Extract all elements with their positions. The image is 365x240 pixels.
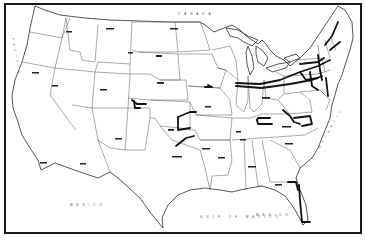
label-pacific: PACIFIC — [11, 37, 22, 77]
great-lakes — [226, 28, 300, 75]
state-borders — [22, 18, 336, 190]
map-labels — [32, 28, 293, 186]
label-mexico: MEXICO — [70, 203, 106, 207]
map-frame — [5, 4, 361, 233]
label-mexico-southeast: MEXICO — [256, 213, 292, 217]
label-canada: CANADA — [178, 12, 215, 16]
us-map: CANADA MEXICO PACIFIC ATLANTIC GULF OF M… — [0, 0, 365, 240]
